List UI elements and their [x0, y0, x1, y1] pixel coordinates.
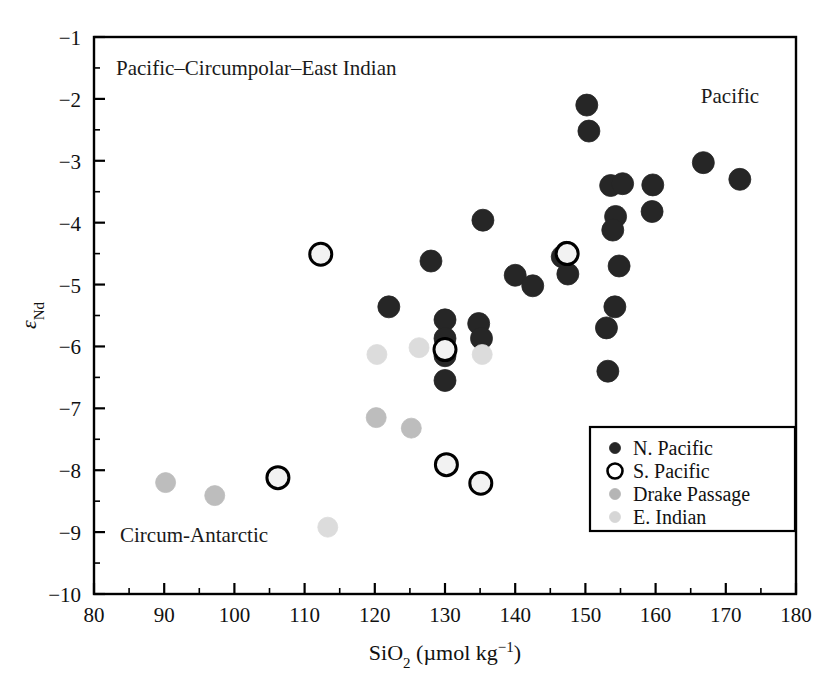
data-point[interactable] — [641, 201, 663, 223]
y-tick-label: −7 — [59, 397, 81, 421]
y-tick-label: −1 — [59, 26, 81, 50]
data-point[interactable] — [470, 472, 492, 494]
x-tick-label: 110 — [289, 603, 320, 627]
x-tick-label: 100 — [219, 603, 251, 627]
x-tick-label: 140 — [499, 603, 531, 627]
y-tick-label: −5 — [59, 274, 81, 298]
data-point[interactable] — [366, 408, 386, 428]
legend: N. PacificS. PacificDrake PassageE. Indi… — [590, 427, 795, 531]
annotation-pacific: Pacific — [701, 84, 759, 108]
data-point[interactable] — [378, 296, 400, 318]
data-point[interactable] — [602, 219, 624, 241]
data-point[interactable] — [608, 255, 630, 277]
y-tick-label: −8 — [59, 459, 81, 483]
data-point[interactable] — [522, 275, 544, 297]
scatter-plot-figure: 8090100110120130140150160170180−1−2−3−4−… — [0, 0, 836, 684]
data-point[interactable] — [604, 296, 626, 318]
data-point[interactable] — [556, 243, 578, 265]
annotation-pacific-circumpolar-east-indian: Pacific–Circumpolar–East Indian — [116, 56, 397, 80]
data-point[interactable] — [156, 473, 176, 493]
legend-marker-e-indian — [610, 512, 621, 523]
x-tick-label: 130 — [429, 603, 461, 627]
data-point[interactable] — [420, 250, 442, 272]
legend-label: N. Pacific — [633, 437, 713, 459]
x-tick-label: 90 — [154, 603, 175, 627]
data-point[interactable] — [434, 369, 456, 391]
x-tick-label: 180 — [780, 603, 812, 627]
legend-label: E. Indian — [633, 506, 706, 528]
legend-marker-s-pacific — [608, 464, 623, 479]
data-point[interactable] — [434, 339, 456, 361]
data-point[interactable] — [401, 418, 421, 438]
x-tick-label: 160 — [640, 603, 672, 627]
data-point[interactable] — [472, 209, 494, 231]
data-point[interactable] — [557, 263, 579, 285]
data-point[interactable] — [642, 174, 664, 196]
y-tick-label: −9 — [59, 521, 81, 545]
annotation-circum-antarctic: Circum-Antarctic — [120, 523, 268, 547]
x-tick-label: 80 — [84, 603, 105, 627]
data-point[interactable] — [576, 94, 598, 116]
data-point[interactable] — [310, 243, 332, 265]
y-tick-label: −6 — [59, 335, 81, 359]
data-point[interactable] — [409, 338, 429, 358]
data-point[interactable] — [597, 360, 619, 382]
legend-label: S. Pacific — [633, 460, 710, 482]
data-point[interactable] — [435, 454, 457, 476]
legend-label: Drake Passage — [633, 483, 750, 506]
x-tick-label: 120 — [359, 603, 391, 627]
y-tick-label: −10 — [48, 583, 81, 607]
y-tick-label: −3 — [59, 150, 81, 174]
y-tick-label: −2 — [59, 88, 81, 112]
data-point[interactable] — [612, 173, 634, 195]
x-tick-label: 150 — [570, 603, 602, 627]
data-point[interactable] — [729, 168, 751, 190]
data-point[interactable] — [267, 467, 289, 489]
data-point[interactable] — [595, 317, 617, 339]
data-point[interactable] — [692, 152, 714, 174]
data-point[interactable] — [367, 344, 387, 364]
y-tick-label: −4 — [59, 212, 82, 236]
data-point[interactable] — [472, 344, 492, 364]
legend-marker-n-pacific — [610, 443, 621, 454]
data-point[interactable] — [318, 517, 338, 537]
legend-marker-drake-passage — [610, 489, 621, 500]
data-point[interactable] — [578, 120, 600, 142]
data-point[interactable] — [205, 486, 225, 506]
x-tick-label: 170 — [710, 603, 742, 627]
